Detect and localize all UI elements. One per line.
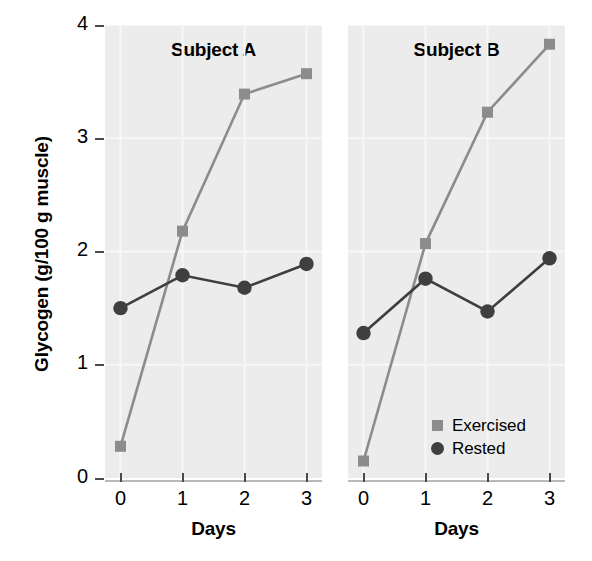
x-tick-label-a-2: 2 xyxy=(233,487,257,510)
panel-subject-a: Subject A xyxy=(105,25,322,478)
x-tick-mark-a-0 xyxy=(120,473,122,482)
x-tick-mark-a-3 xyxy=(306,473,308,482)
legend-circle-marker-icon xyxy=(431,442,444,455)
x-axis-line-a xyxy=(105,480,322,482)
y-tick-label-0: 0 xyxy=(58,465,88,488)
y-tick-mark-3 xyxy=(95,138,104,140)
x-tick-mark-b-0 xyxy=(363,473,365,482)
y-tick-mark-4 xyxy=(95,25,104,27)
panel-a-plot xyxy=(105,25,322,478)
legend-label-exercised: Exercised xyxy=(452,416,526,436)
y-axis-label: Glycogen (g/100 g muscle) xyxy=(31,44,53,464)
x-tick-label-b-2: 2 xyxy=(476,487,500,510)
x-tick-mark-a-1 xyxy=(182,473,184,482)
y-tick-mark-2 xyxy=(95,251,104,253)
y-tick-label-1: 1 xyxy=(58,351,88,374)
panel-b-plot xyxy=(348,25,565,478)
x-tick-label-b-1: 1 xyxy=(414,487,438,510)
x-tick-label-b-0: 0 xyxy=(352,487,376,510)
legend-square-marker-icon xyxy=(432,420,443,431)
x-tick-label-a-1: 1 xyxy=(171,487,195,510)
legend-item-exercised: Exercised xyxy=(432,414,526,437)
figure-container: Glycogen (g/100 g muscle) 4 3 2 1 0 Subj… xyxy=(0,0,592,561)
legend: Exercised Rested xyxy=(432,414,526,460)
y-tick-label-4: 4 xyxy=(58,12,88,35)
x-axis-label-a: Days xyxy=(105,518,322,540)
x-axis-line-b xyxy=(348,480,565,482)
x-tick-mark-b-1 xyxy=(425,473,427,482)
x-tick-mark-b-2 xyxy=(487,473,489,482)
x-tick-mark-a-2 xyxy=(244,473,246,482)
x-tick-label-a-0: 0 xyxy=(109,487,133,510)
legend-item-rested: Rested xyxy=(432,437,526,460)
x-tick-label-b-3: 3 xyxy=(538,487,562,510)
y-tick-mark-1 xyxy=(95,364,104,366)
y-tick-label-2: 2 xyxy=(58,238,88,261)
x-tick-label-a-3: 3 xyxy=(295,487,319,510)
x-tick-mark-b-3 xyxy=(549,473,551,482)
y-tick-label-3: 3 xyxy=(58,125,88,148)
x-axis-label-b: Days xyxy=(348,518,565,540)
y-tick-mark-0 xyxy=(95,478,104,480)
legend-label-rested: Rested xyxy=(452,439,505,459)
panel-subject-b: Subject B xyxy=(348,25,565,478)
